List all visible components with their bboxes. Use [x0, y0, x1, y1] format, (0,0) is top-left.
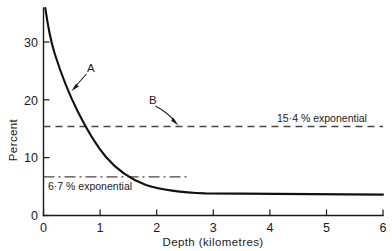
x-axis-ticks [44, 210, 384, 216]
x-tick-label-5: 5 [323, 221, 330, 235]
annotation-b-label: B [149, 94, 157, 106]
y-tick-label-0: 0 [31, 209, 38, 223]
chart-plot-area: A B 0 10 20 30 0 1 2 3 4 5 6 15·4 % expo… [0, 0, 392, 251]
chart-container: A B 0 10 20 30 0 1 2 3 4 5 6 15·4 % expo… [0, 0, 392, 251]
x-axis-title: Depth (kilometres) [162, 236, 263, 248]
x-tick-label-4: 4 [266, 221, 273, 235]
y-tick-labels: 0 10 20 30 [24, 36, 38, 224]
reference-label-15-4-percent: 15·4 % exponential [277, 112, 367, 124]
annotation-a-arrow-head [72, 84, 79, 91]
y-axis-title: Percent [7, 118, 19, 161]
x-tick-label-1: 1 [97, 221, 104, 235]
x-tick-label-2: 2 [153, 221, 160, 235]
x-tick-label-0: 0 [40, 221, 47, 235]
annotation-b-group: B [149, 94, 179, 126]
annotation-a-group: A [72, 62, 96, 91]
x-tick-label-6: 6 [380, 221, 387, 235]
reference-label-6-7-percent: 6·7 % exponential [48, 180, 132, 192]
annotation-a-label: A [87, 62, 95, 74]
decay-curve-a [45, 8, 383, 195]
y-tick-label-20: 20 [24, 94, 38, 108]
x-tick-label-3: 3 [210, 221, 217, 235]
x-tick-labels: 0 1 2 3 4 5 6 [40, 221, 387, 235]
y-tick-label-10: 10 [24, 151, 38, 165]
y-tick-label-30: 30 [24, 36, 38, 50]
